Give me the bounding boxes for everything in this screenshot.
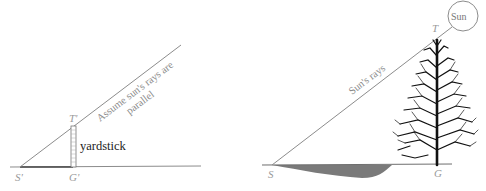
right-figure: Sun	[262, 1, 478, 180]
label-s: S	[268, 168, 274, 180]
label-t-prime: T'	[69, 112, 78, 124]
tree-icon	[393, 40, 478, 165]
sun-label: Sun	[451, 11, 467, 22]
label-g: G	[434, 167, 442, 179]
ray-assumption-line1: Assume sun's rays are	[95, 59, 176, 124]
ground-line-right	[262, 164, 452, 165]
similar-triangles-diagram: S' G' T' yardstick Assume sun's rays are…	[0, 0, 486, 191]
yardstick	[71, 126, 76, 167]
label-s-prime: S'	[15, 171, 24, 183]
label-g-prime: G'	[69, 171, 80, 183]
tree-shadow	[272, 165, 392, 178]
sun-rays-label: Sun's rays	[347, 62, 388, 96]
label-t: T	[432, 22, 439, 34]
left-figure: S' G' T' yardstick Assume sun's rays are…	[10, 45, 201, 183]
yardstick-label: yardstick	[80, 139, 127, 153]
sun-ray-right	[272, 27, 452, 165]
